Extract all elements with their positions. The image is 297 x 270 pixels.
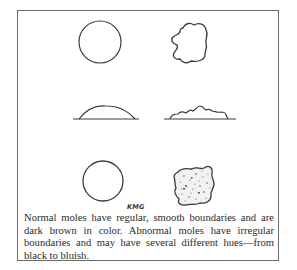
abnormal-mole-color-icon [174, 166, 214, 205]
normal-mole-top-view-icon [79, 21, 121, 63]
artist-signature: KMG [127, 203, 145, 211]
abnormal-mole-top-view-icon [172, 23, 207, 62]
figure-caption: Normal moles have regular, smooth bounda… [24, 212, 274, 262]
normal-mole-color-icon [83, 161, 123, 201]
normal-mole-side-view-icon [79, 106, 135, 119]
abnormal-mole-side-view-icon [170, 106, 228, 119]
